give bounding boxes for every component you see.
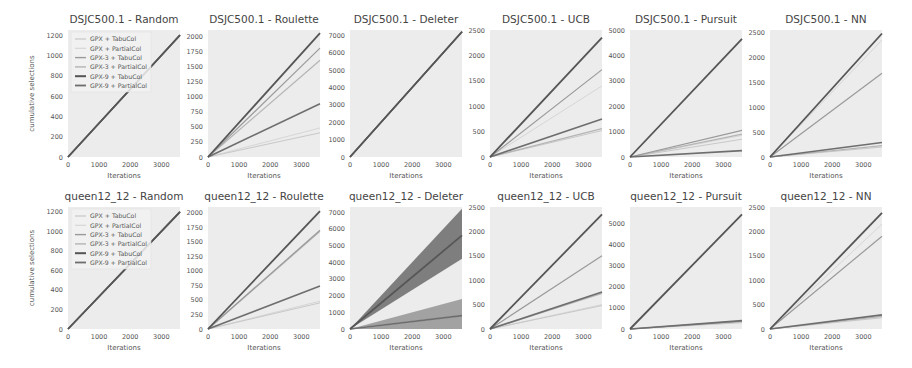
y-tick-label: 2500 — [748, 29, 765, 37]
y-tick-label: 7000 — [328, 209, 345, 217]
y-tick-label: 4000 — [328, 259, 345, 267]
x-tick-label: 2000 — [262, 161, 279, 169]
y-tick-label: 1500 — [468, 77, 485, 85]
subplot-queen12-12-ucb: queen12_12 - UCB050010001500200025000100… — [468, 190, 602, 352]
y-tick-label: 750 — [191, 108, 203, 116]
x-axis-label: Iterations — [389, 172, 423, 180]
x-tick-label: 2000 — [824, 161, 841, 169]
y-tick-label: 0 — [341, 326, 345, 334]
legend-entry: GPX-9 + PartialCol — [90, 259, 147, 266]
y-tick-label: 1200 — [46, 32, 63, 40]
y-tick-label: 5000 — [328, 67, 345, 75]
y-tick-label: 5000 — [608, 220, 625, 228]
subplot-queen12-12-deleter: queen12_12 - Deleter01000200030004000500… — [328, 190, 463, 352]
subplot-title: DSJC500.1 - Deleter — [354, 13, 459, 25]
x-tick-label: 3000 — [153, 161, 170, 169]
y-tick-label: 2000 — [468, 228, 485, 236]
x-tick-label: 3000 — [575, 161, 592, 169]
x-axis-label: Iterations — [389, 344, 423, 352]
y-tick-label: 0 — [341, 154, 345, 162]
y-tick-label: 2000 — [328, 119, 345, 127]
subplot-title: queen12_12 - UCB — [497, 190, 595, 203]
x-tick-label: 2000 — [262, 333, 279, 341]
y-tick-label: 2000 — [748, 228, 765, 236]
subplot-title: queen12_12 - Pursuit — [630, 190, 742, 203]
subplot-title: DSJC500.1 - UCB — [502, 13, 590, 25]
y-tick-label: 2500 — [748, 204, 765, 212]
legend-entry: GPX + PartialCol — [90, 45, 141, 52]
x-tick-label: 1000 — [373, 333, 390, 341]
y-tick-label: 1000 — [608, 304, 625, 312]
x-tick-label: 0 — [768, 333, 772, 341]
y-tick-label: 2000 — [186, 33, 203, 41]
y-tick-label: 6000 — [328, 49, 345, 57]
x-axis-label: Iterations — [809, 172, 843, 180]
x-tick-label: 0 — [206, 161, 210, 169]
x-tick-label: 3000 — [855, 161, 872, 169]
subplot-dsjc500-1-deleter: DSJC500.1 - Deleter010002000300040005000… — [328, 13, 462, 180]
y-tick-label: 500 — [753, 301, 765, 309]
x-tick-label: 1000 — [653, 161, 670, 169]
y-tick-label: 1500 — [186, 238, 203, 246]
legend: GPX + TabuColGPX + PartialColGPX-3 + Tab… — [71, 209, 151, 269]
x-tick-label: 1000 — [793, 161, 810, 169]
x-axis-label: Iterations — [529, 172, 563, 180]
x-tick-label: 0 — [66, 161, 70, 169]
x-tick-label: 2000 — [404, 161, 421, 169]
x-tick-label: 0 — [488, 161, 492, 169]
y-tick-label: 1000 — [468, 277, 485, 285]
y-tick-label: 1000 — [186, 267, 203, 275]
y-tick-label: 0 — [199, 154, 203, 162]
x-tick-label: 2000 — [684, 161, 701, 169]
y-tick-label: 1000 — [748, 104, 765, 112]
x-axis-label: Iterations — [809, 344, 843, 352]
x-tick-label: 0 — [768, 161, 772, 169]
x-tick-label: 1000 — [653, 333, 670, 341]
y-tick-label: 4000 — [608, 241, 625, 249]
y-tick-label: 1000 — [186, 93, 203, 101]
y-tick-label: 1000 — [608, 128, 625, 136]
y-tick-label: 0 — [481, 326, 485, 334]
x-axis-label: Iterations — [669, 172, 703, 180]
y-tick-label: 5000 — [328, 242, 345, 250]
y-tick-label: 200 — [51, 306, 63, 314]
x-axis-label: Iterations — [669, 344, 703, 352]
y-tick-label: 1000 — [468, 103, 485, 111]
y-axis-label: cumulative selections — [28, 230, 36, 307]
x-axis-label: Iterations — [107, 172, 141, 180]
x-tick-label: 1000 — [91, 333, 108, 341]
y-tick-label: 1500 — [186, 63, 203, 71]
y-tick-label: 1750 — [186, 224, 203, 232]
x-tick-label: 3000 — [715, 333, 732, 341]
subplot-dsjc500-1-pursuit: DSJC500.1 - Pursuit010002000300040005000… — [608, 13, 742, 180]
y-tick-label: 1000 — [46, 52, 63, 60]
x-tick-label: 1000 — [231, 333, 248, 341]
y-tick-label: 1500 — [748, 252, 765, 260]
subplot-queen12-12-nn: queen12_12 - NN0500100015002000250001000… — [748, 190, 882, 352]
y-tick-label: 2000 — [608, 103, 625, 111]
legend-entry: GPX-3 + PartialCol — [90, 63, 147, 70]
y-tick-label: 0 — [761, 326, 765, 334]
subplot-title: queen12_12 - Roulette — [204, 190, 323, 203]
y-tick-label: 2500 — [468, 27, 485, 35]
x-tick-label: 0 — [628, 161, 632, 169]
y-tick-label: 800 — [51, 72, 63, 80]
x-tick-label: 0 — [348, 333, 352, 341]
y-tick-label: 1250 — [186, 253, 203, 261]
x-tick-label: 3000 — [153, 333, 170, 341]
x-tick-label: 1000 — [793, 333, 810, 341]
y-tick-label: 1750 — [186, 48, 203, 56]
x-tick-label: 2000 — [404, 333, 421, 341]
x-tick-label: 1000 — [373, 161, 390, 169]
x-tick-label: 2000 — [544, 161, 561, 169]
subplot-dsjc500-1-ucb: DSJC500.1 - UCB0500100015002000250001000… — [468, 13, 602, 180]
x-tick-label: 0 — [206, 333, 210, 341]
y-tick-label: 1000 — [328, 309, 345, 317]
y-tick-label: 3000 — [608, 77, 625, 85]
subplot-dsjc500-1-roulette: DSJC500.1 - Roulette02505007501000125015… — [186, 13, 320, 180]
y-tick-label: 4000 — [608, 52, 625, 60]
y-tick-label: 2000 — [186, 209, 203, 217]
x-axis-label: Iterations — [247, 172, 281, 180]
legend-entry: GPX-9 + TabuCol — [90, 250, 142, 257]
y-tick-label: 500 — [753, 129, 765, 137]
